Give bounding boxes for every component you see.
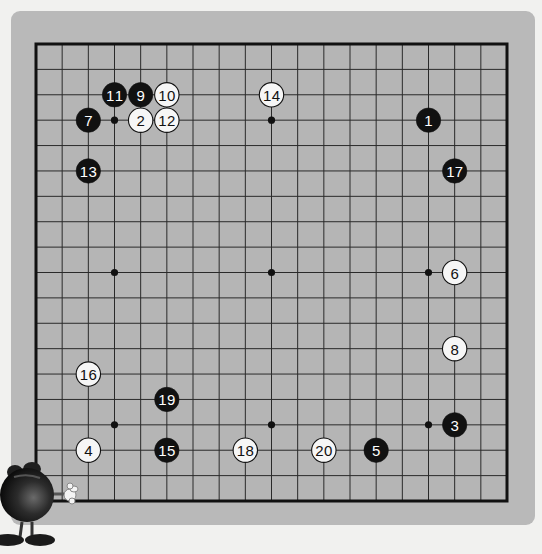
move-number-label: 2 (136, 112, 144, 129)
star-point (425, 269, 432, 276)
stone-white-move-6: 6 (442, 260, 466, 284)
stone-black-move-9: 9 (128, 83, 152, 107)
stone-black-move-1: 1 (416, 108, 440, 132)
mascot-foot (25, 534, 55, 546)
move-number-label: 12 (158, 112, 175, 129)
stone-black-move-19: 19 (155, 387, 179, 411)
move-number-label: 5 (372, 442, 380, 459)
star-point (268, 269, 275, 276)
mascot-hand (64, 483, 78, 504)
star-point (268, 421, 275, 428)
star-point (111, 117, 118, 124)
stone-white-move-4: 4 (76, 438, 100, 462)
stone-black-move-11: 11 (102, 83, 126, 107)
move-number-label: 18 (237, 442, 254, 459)
star-point (268, 117, 275, 124)
stone-white-move-20: 20 (312, 438, 336, 462)
stone-white-move-8: 8 (442, 336, 466, 360)
move-number-label: 19 (158, 391, 175, 408)
stone-black-move-3: 3 (442, 413, 466, 437)
move-number-label: 15 (158, 442, 175, 459)
stone-black-move-13: 13 (76, 159, 100, 183)
mascot-leg (20, 522, 22, 537)
move-number-label: 3 (450, 417, 458, 434)
star-point (111, 421, 118, 428)
move-number-label: 11 (106, 87, 123, 104)
stone-white-move-16: 16 (76, 362, 100, 386)
stone-white-move-2: 2 (128, 108, 152, 132)
stone-white-move-12: 12 (155, 108, 179, 132)
star-point (425, 421, 432, 428)
move-number-label: 14 (263, 87, 280, 104)
star-point (111, 269, 118, 276)
stone-black-move-5: 5 (364, 438, 388, 462)
move-number-label: 1 (424, 112, 432, 129)
move-number-label: 9 (136, 87, 144, 104)
black-ball-mascot-icon (0, 462, 90, 554)
move-number-label: 17 (446, 163, 463, 180)
stone-black-move-7: 7 (76, 108, 100, 132)
move-number-label: 10 (158, 87, 175, 104)
move-number-label: 13 (80, 163, 97, 180)
move-number-label: 16 (80, 366, 97, 383)
move-number-label: 8 (450, 341, 458, 358)
stone-black-move-15: 15 (155, 438, 179, 462)
move-number-label: 20 (315, 442, 332, 459)
move-number-label: 7 (84, 112, 92, 129)
stone-white-move-14: 14 (259, 83, 283, 107)
stone-white-move-18: 18 (233, 438, 257, 462)
stone-white-move-10: 10 (155, 83, 179, 107)
stone-black-move-17: 17 (442, 159, 466, 183)
move-number-label: 4 (84, 442, 92, 459)
move-number-label: 6 (450, 265, 458, 282)
